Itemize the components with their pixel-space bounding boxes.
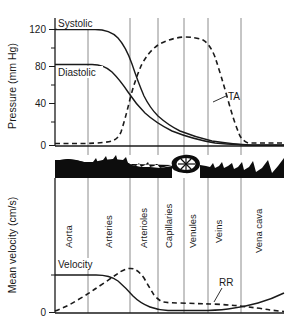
- label-ta: TA: [228, 91, 240, 102]
- pressure-annotation-diastolic: Diastolic: [57, 66, 103, 78]
- pressure-ytick-80: 80: [35, 61, 47, 72]
- cardiovascular-pressure-velocity-figure: Pressure (mm Hg) 120 80 40 0: [0, 0, 288, 325]
- vessel-label-veins: Veins: [213, 220, 224, 243]
- vessel-label-venules: Venules: [187, 214, 198, 248]
- label-velocity: Velocity: [58, 259, 92, 270]
- velocity-y-axis-title: Mean velocity (cm/s): [6, 197, 18, 293]
- pressure-y-axis-title: Pressure (mm Hg): [6, 43, 18, 129]
- vessel-label-arteries: Arteries: [103, 215, 114, 248]
- vessel-label-capillaries: Capillaries: [163, 203, 174, 248]
- vessel-label-arterioles: Arterioles: [138, 208, 149, 248]
- pressure-ytick-120: 120: [29, 24, 46, 35]
- figure-background: [0, 0, 288, 325]
- label-diastolic: Diastolic: [58, 67, 96, 78]
- pressure-ytick-0: 0: [40, 140, 46, 151]
- label-systolic: Systolic: [58, 18, 92, 29]
- vessel-label-aorta: Aorta: [63, 225, 74, 248]
- vessel-label-vena-cava: Vena cava: [253, 208, 264, 253]
- label-rr: RR: [219, 277, 233, 288]
- capillary-network-icon: [174, 156, 198, 172]
- pressure-ytick-40: 40: [35, 98, 47, 109]
- velocity-ytick-0: 0: [40, 307, 46, 318]
- pressure-annotation-systolic: Systolic: [57, 17, 99, 29]
- velocity-annotation-velocity: Velocity: [57, 258, 101, 270]
